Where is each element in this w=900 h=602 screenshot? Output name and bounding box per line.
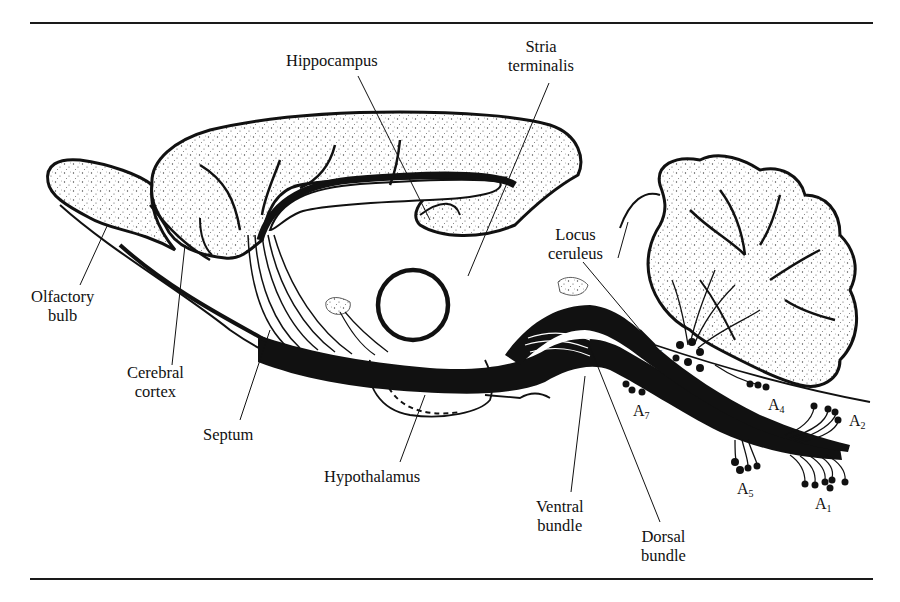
ventral-text-line2: bundle xyxy=(536,516,584,535)
label-dorsal-bundle: Dorsal bundle xyxy=(641,527,686,565)
label-olfactory-bulb: Olfactory bulb xyxy=(31,287,94,325)
label-ventral-bundle: Ventral bundle xyxy=(536,497,584,535)
cortex-text-line1: Cerebral xyxy=(127,363,184,382)
olfactory-text-line2: bulb xyxy=(31,306,94,325)
label-a6: A6 xyxy=(646,340,663,359)
a1-sub: 1 xyxy=(827,503,832,514)
a7-letter: A xyxy=(633,402,645,419)
cortex-text-line2: cortex xyxy=(127,382,184,401)
dorsal-text-line2: bundle xyxy=(641,546,686,565)
a5-letter: A xyxy=(737,480,749,497)
label-a1: A1 xyxy=(815,495,832,514)
a1-cell-cluster xyxy=(790,455,849,492)
a2-letter: A xyxy=(849,412,861,429)
a4-sub: 4 xyxy=(780,404,785,415)
label-a5: A5 xyxy=(737,480,754,499)
label-locus-ceruleus: Locus ceruleus xyxy=(548,225,603,263)
dorsal-text-line1: Dorsal xyxy=(641,527,686,546)
label-hypothalamus: Hypothalamus xyxy=(324,467,420,486)
label-septum: Septum xyxy=(203,425,253,444)
stria-text-line2: terminalis xyxy=(508,56,574,75)
a6-sub: 6 xyxy=(658,348,663,359)
label-hippocampus: Hippocampus xyxy=(286,51,378,70)
a1-letter: A xyxy=(815,495,827,512)
stria-terminalis-ring xyxy=(378,270,448,340)
a7-sub: 7 xyxy=(645,410,650,421)
stria-text-line1: Stria xyxy=(508,37,574,56)
brain-diagram xyxy=(0,0,900,602)
septum-text: Septum xyxy=(203,425,253,444)
ventral-text-line1: Ventral xyxy=(536,497,584,516)
label-stria-terminalis: Stria terminalis xyxy=(508,37,574,75)
cerebellum-shape xyxy=(648,156,857,386)
locus-text-line1: Locus xyxy=(548,225,603,244)
a6-letter: A xyxy=(646,340,658,357)
a4-letter: A xyxy=(768,396,780,413)
label-a7: A7 xyxy=(633,402,650,421)
label-a2: A2 xyxy=(849,412,866,431)
olfactory-text-line1: Olfactory xyxy=(31,287,94,306)
hippocampus-text: Hippocampus xyxy=(286,51,378,70)
locus-text-line2: ceruleus xyxy=(548,244,603,263)
a5-sub: 5 xyxy=(749,488,754,499)
label-a4: A4 xyxy=(768,396,785,415)
hypothalamus-text: Hypothalamus xyxy=(324,467,420,486)
a2-sub: 2 xyxy=(861,420,866,431)
label-cerebral-cortex: Cerebral cortex xyxy=(127,363,184,401)
